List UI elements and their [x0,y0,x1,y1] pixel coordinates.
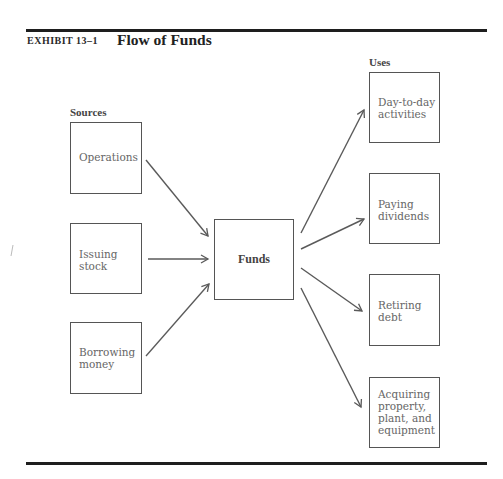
arrow-funds-to-acquiring [301,288,361,407]
arrow-funds-to-dividends [301,219,364,249]
arrow-borrowing-to-funds [146,284,209,356]
flow-arrows [0,0,503,479]
arrow-operations-to-funds [146,160,208,236]
arrow-funds-to-daytoday [301,110,364,233]
arrow-funds-to-debt [301,268,362,311]
bottom-rule [26,462,487,465]
scan-artifact-mark [11,245,13,256]
